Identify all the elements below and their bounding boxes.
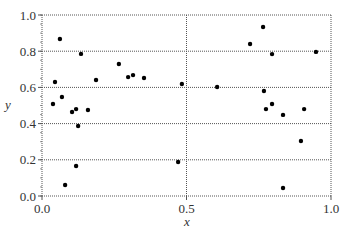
data-point (74, 164, 78, 168)
scatter-chart: 0.00.51.0 0.00.20.40.60.81.0 x y (0, 0, 343, 231)
data-point (53, 80, 57, 84)
data-point (262, 89, 266, 93)
data-point (261, 25, 265, 29)
data-point (86, 108, 90, 112)
grid-lines (42, 15, 331, 196)
data-point (270, 102, 274, 106)
data-point (299, 139, 303, 143)
data-point (142, 76, 146, 80)
data-point (60, 95, 64, 99)
y-axis-label: y (3, 97, 11, 112)
x-tick-label: 0.0 (34, 201, 50, 216)
data-point (314, 50, 318, 54)
data-point (94, 78, 98, 82)
y-tick-label: 1.0 (20, 8, 36, 23)
data-point (176, 160, 180, 164)
data-point (51, 102, 55, 106)
x-axis-label: x (183, 214, 190, 229)
data-point (76, 124, 80, 128)
data-point (117, 62, 121, 66)
data-point (79, 52, 83, 56)
y-tick-label: 0.0 (20, 189, 36, 204)
data-point (264, 107, 268, 111)
y-tick-label: 0.4 (20, 116, 37, 131)
x-tick-label: 1.0 (323, 201, 339, 216)
data-point (281, 186, 285, 190)
x-axis-ticks: 0.00.51.0 (34, 196, 339, 216)
data-point (180, 82, 184, 86)
data-point (70, 110, 74, 114)
data-point (63, 183, 67, 187)
axes (40, 15, 42, 196)
data-point (281, 113, 285, 117)
y-tick-label: 0.2 (20, 152, 36, 167)
y-axis-ticks: 0.00.20.40.60.81.0 (20, 8, 42, 204)
data-point (302, 107, 306, 111)
data-points (51, 25, 318, 190)
data-point (126, 75, 130, 79)
data-point (58, 37, 62, 41)
y-tick-label: 0.8 (20, 44, 36, 59)
data-point (270, 52, 274, 56)
data-point (215, 85, 219, 89)
data-point (74, 107, 78, 111)
data-point (131, 73, 135, 77)
data-point (248, 42, 252, 46)
y-tick-label: 0.6 (20, 80, 37, 95)
